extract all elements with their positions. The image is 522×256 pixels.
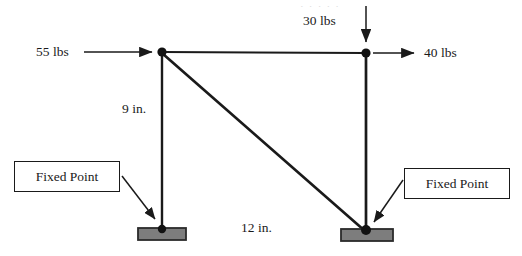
dimension-label-12in: 12 in. (241, 221, 272, 235)
load-label-55lbs: 55 lbs (36, 45, 69, 59)
dimension-label-9in: 9 in. (122, 102, 146, 116)
callout-box-left-fixed-point: Fixed Point (14, 161, 120, 192)
member-top-chord (162, 52, 366, 53)
callout-right-label: Fixed Point (426, 176, 489, 192)
load-label-30lbs: 30 lbs (303, 14, 336, 28)
top-right-joint (361, 48, 370, 57)
callout-left-leader (122, 176, 155, 219)
left-base-joint (158, 225, 166, 233)
load-arrows (84, 6, 414, 53)
truss-members (162, 52, 366, 232)
callout-leaders (122, 176, 403, 222)
load-label-40lbs: 40 lbs (424, 46, 457, 60)
member-diagonal (163, 54, 365, 231)
callout-left-label: Fixed Point (36, 169, 99, 185)
diagram-canvas (0, 0, 522, 256)
right-base-joint (361, 225, 371, 235)
callout-box-right-fixed-point: Fixed Point (404, 168, 510, 199)
callout-right-leader (374, 180, 403, 222)
force-diagram-figure: · · · · · (0, 0, 522, 256)
top-left-joint (157, 47, 166, 56)
